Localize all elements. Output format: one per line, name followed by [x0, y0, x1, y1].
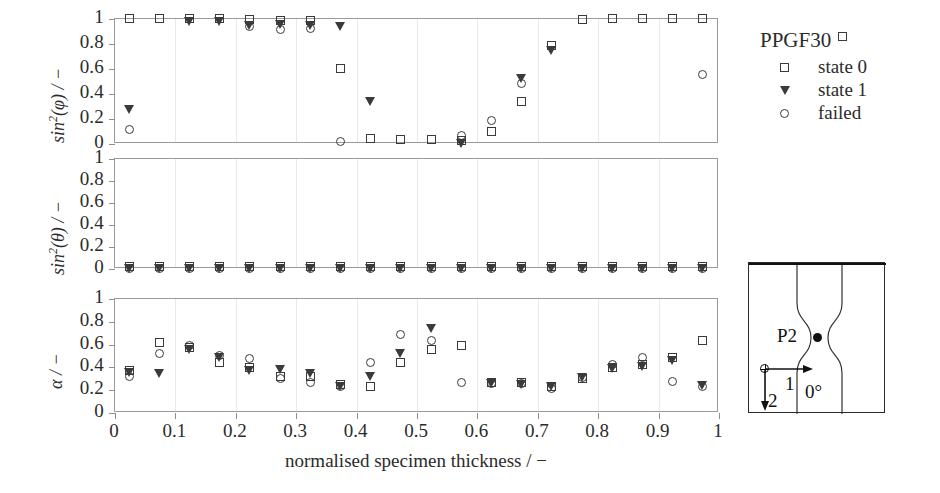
data-point-square [336, 64, 345, 73]
legend-marker-triangle [780, 86, 790, 95]
data-point-triangle [365, 97, 375, 106]
y-axis-tick-label: 1 [50, 146, 104, 168]
data-point-circle [457, 131, 466, 140]
x-axis-tick-label: 0.7 [507, 420, 567, 442]
x-axis-tick-label: 0.1 [144, 420, 204, 442]
data-point-circle [578, 264, 587, 273]
data-point-circle [668, 377, 677, 386]
y-axis-tick-label: 0.4 [50, 81, 104, 103]
data-point-square [668, 14, 677, 23]
data-point-square [396, 358, 405, 367]
figure-root: sin2(φ) / − sin2(θ) / − α / − normalised… [0, 0, 940, 493]
data-point-triangle [365, 372, 375, 381]
gridline-vertical [296, 299, 297, 411]
y-axis-tick-label: 0.4 [50, 354, 104, 376]
gridline-vertical [659, 159, 660, 267]
data-point-triangle [426, 324, 436, 333]
data-point-circle [547, 384, 556, 393]
y-axis-tick-label: 1 [50, 6, 104, 28]
y-axis-tick [109, 225, 115, 226]
y-axis-tick-label: 0.8 [50, 31, 104, 53]
data-point-square [638, 14, 647, 23]
data-point-circle [125, 125, 134, 134]
y-axis-tick [109, 247, 115, 248]
x-axis-tick-label: 1 [688, 420, 748, 442]
data-point-circle [215, 351, 224, 360]
data-point-circle [336, 137, 345, 146]
x-axis-tick [175, 413, 176, 419]
gridline-vertical [477, 19, 478, 142]
y-axis-tick-label: 0.2 [50, 106, 104, 128]
data-point-circle [306, 24, 315, 33]
data-point-circle [487, 264, 496, 273]
data-point-square [366, 134, 375, 143]
data-point-triangle [546, 46, 556, 55]
data-point-square [427, 345, 436, 354]
y-axis-tick [109, 322, 115, 323]
x-axis-tick [296, 413, 297, 419]
y-axis-tick [109, 119, 115, 120]
gridline-vertical [236, 159, 237, 267]
y-axis-tick [109, 144, 115, 145]
data-point-square [698, 336, 707, 345]
data-point-circle [125, 372, 134, 381]
y-axis-tick-label: 0.4 [50, 212, 104, 234]
data-point-circle [427, 336, 436, 345]
gridline-vertical [357, 299, 358, 411]
data-point-circle [547, 264, 556, 273]
x-axis-tick [659, 413, 660, 419]
x-axis-tick [598, 413, 599, 419]
data-point-circle [306, 264, 315, 273]
data-point-triangle [184, 17, 194, 26]
y-axis-tick-label: 0 [50, 400, 104, 422]
data-point-triangle [305, 369, 315, 378]
data-point-circle [487, 116, 496, 125]
data-point-square [427, 135, 436, 144]
data-point-circle [578, 373, 587, 382]
x-axis-tick [538, 413, 539, 419]
x-axis-tick-label: 0.6 [446, 420, 506, 442]
x-axis-tick [417, 413, 418, 419]
data-point-triangle [667, 356, 677, 365]
legend-item-label: state 0 [818, 56, 867, 78]
data-point-circle [517, 264, 526, 273]
data-point-circle [608, 360, 617, 369]
legend-item-label: failed [818, 102, 861, 124]
data-point-circle [668, 264, 677, 273]
y-axis-tick [109, 44, 115, 45]
x-axis-tick-label: 0.8 [567, 420, 627, 442]
gridline-vertical [357, 159, 358, 267]
data-point-circle [125, 264, 134, 273]
data-point-circle [638, 264, 647, 273]
data-point-triangle [275, 365, 285, 374]
gridline-vertical [175, 19, 176, 142]
legend-item-label: state 1 [818, 79, 867, 101]
inset-axis1-label: 1 [785, 373, 795, 395]
gridline-vertical [417, 19, 418, 142]
data-point-circle [306, 378, 315, 387]
legend-marker-circle [780, 109, 789, 118]
gridline-vertical [598, 159, 599, 267]
gridline-vertical [538, 19, 539, 142]
gridline-vertical [296, 159, 297, 267]
y-axis-tick-label: 0.6 [50, 56, 104, 78]
gridline-vertical [538, 159, 539, 267]
gridline-vertical [598, 299, 599, 411]
data-point-circle [457, 378, 466, 387]
data-point-circle [276, 264, 285, 273]
data-point-square [155, 14, 164, 23]
y-axis-tick-label: 0 [50, 256, 104, 278]
y-axis-tick-label: 0.8 [50, 168, 104, 190]
legend-marker-square [780, 63, 789, 72]
data-point-square [125, 14, 134, 23]
data-point-square [608, 14, 617, 23]
data-point-circle [366, 264, 375, 273]
data-point-circle [517, 79, 526, 88]
legend-title: PPGF30 [760, 28, 831, 53]
x-axis-tick-label: 0.3 [265, 420, 325, 442]
x-axis-tick [719, 413, 720, 419]
y-axis-tick [109, 269, 115, 270]
x-axis-tick [357, 413, 358, 419]
y-axis-tick-label: 0.2 [50, 377, 104, 399]
y-axis-tick-label: 0.6 [50, 332, 104, 354]
